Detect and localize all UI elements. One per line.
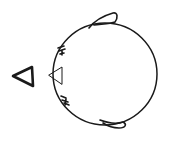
body-circle bbox=[53, 23, 157, 125]
top-fin bbox=[89, 13, 117, 28]
sketch-canvas bbox=[0, 0, 178, 147]
upper-whisker-marks bbox=[58, 46, 65, 55]
beak-triangle-icon bbox=[49, 67, 62, 84]
sketch-drawing bbox=[0, 0, 178, 147]
direction-arrow-icon bbox=[13, 67, 33, 86]
